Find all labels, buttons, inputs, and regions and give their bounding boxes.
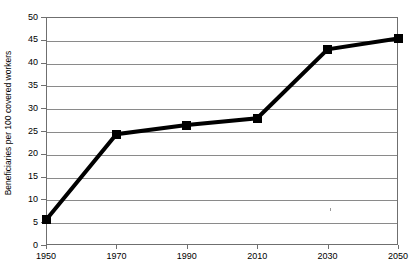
data-point-marker — [394, 34, 403, 43]
y-tick-label: 45 — [4, 35, 38, 44]
y-tick-label: 30 — [4, 104, 38, 113]
grid-line — [47, 155, 397, 156]
x-tick-label: 2010 — [234, 252, 280, 261]
data-point-marker — [323, 45, 332, 54]
grid-line — [47, 109, 397, 110]
y-tick-label: 20 — [4, 149, 38, 158]
plot-area — [46, 17, 398, 245]
chart-figure: Beneficiaries per 100 covered workers 05… — [0, 0, 420, 276]
y-tick-label: 5 — [4, 218, 38, 227]
data-point-marker — [182, 121, 191, 130]
y-tick-label: 35 — [4, 81, 38, 90]
x-tick-mark — [328, 245, 329, 249]
x-tick-label: 1950 — [23, 252, 69, 261]
scan-speck — [330, 208, 331, 211]
data-point-marker — [253, 114, 262, 123]
grid-line — [47, 223, 397, 224]
x-tick-mark — [46, 245, 47, 249]
data-point-marker — [42, 215, 51, 224]
x-tick-mark — [257, 245, 258, 249]
grid-line — [47, 86, 397, 87]
grid-line — [47, 178, 397, 179]
data-point-marker — [112, 130, 121, 139]
x-tick-label: 2030 — [305, 252, 351, 261]
grid-line — [47, 200, 397, 201]
x-tick-label: 1990 — [164, 252, 210, 261]
y-tick-label: 0 — [4, 241, 38, 250]
y-tick-label: 50 — [4, 13, 38, 22]
x-tick-mark — [187, 245, 188, 249]
x-tick-label: 1970 — [93, 252, 139, 261]
y-tick-label: 15 — [4, 172, 38, 181]
grid-line — [47, 64, 397, 65]
x-tick-mark — [116, 245, 117, 249]
grid-line — [47, 41, 397, 42]
x-tick-label: 2050 — [375, 252, 420, 261]
y-tick-label: 25 — [4, 127, 38, 136]
x-tick-mark — [398, 245, 399, 249]
y-tick-label: 10 — [4, 195, 38, 204]
grid-line — [47, 132, 397, 133]
y-tick-label: 40 — [4, 58, 38, 67]
